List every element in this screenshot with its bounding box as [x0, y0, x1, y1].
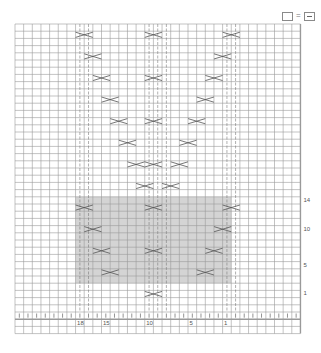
stitch-number-label: 10	[146, 320, 153, 326]
row-number-label: 1	[303, 290, 307, 296]
row-number-label: 10	[303, 226, 310, 232]
row-number-label: 14	[303, 197, 310, 203]
knitting-chart: 18151051141051	[0, 0, 321, 353]
stitch-number-label: 15	[103, 320, 110, 326]
stitch-number-label: 18	[77, 320, 84, 326]
row-number-label: 5	[303, 262, 307, 268]
stitch-number-label: 5	[190, 320, 194, 326]
stitch-number-label: 1	[224, 320, 228, 326]
